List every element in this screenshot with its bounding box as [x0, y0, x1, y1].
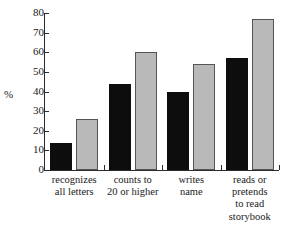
y-tick-label: 60: [20, 46, 44, 57]
y-tick-label: 10: [20, 144, 44, 155]
x-tick-mark: [279, 165, 280, 170]
y-tick-label: 20: [20, 125, 44, 136]
y-tick-label-wrap: 20: [0, 125, 44, 136]
bar-series-light-0: [76, 119, 98, 170]
y-tick-label-wrap: 80: [0, 7, 44, 18]
category-label: reads or pretends to read storybook: [215, 174, 286, 223]
bar-series-light-2: [193, 64, 215, 170]
bar-chart: % 01020304050607080 recognizes all lette…: [0, 0, 285, 234]
y-tick-label-wrap: 0: [0, 164, 44, 175]
bar-series-dark-0: [50, 143, 72, 170]
bar-series-dark-1: [109, 84, 131, 170]
bar-series-dark-2: [167, 92, 189, 171]
y-tick-label-wrap: 10: [0, 144, 44, 155]
plot-area: [45, 13, 279, 170]
y-tick-label-wrap: 30: [0, 105, 44, 116]
y-tick-label-wrap: 70: [0, 27, 44, 38]
bar-series-dark-3: [226, 58, 248, 170]
y-tick-label-wrap: 60: [0, 46, 44, 57]
y-tick-label-wrap: 40: [0, 86, 44, 97]
y-tick-label: 40: [20, 86, 44, 97]
y-tick-label: 80: [20, 7, 44, 18]
y-tick-label: 70: [20, 27, 44, 38]
bar-series-light-1: [135, 52, 157, 170]
y-tick-label: 30: [20, 105, 44, 116]
bar-series-light-3: [252, 19, 274, 170]
x-axis-line: [44, 170, 279, 171]
y-tick-label: 50: [20, 66, 44, 77]
y-tick-label-wrap: 50: [0, 66, 44, 77]
